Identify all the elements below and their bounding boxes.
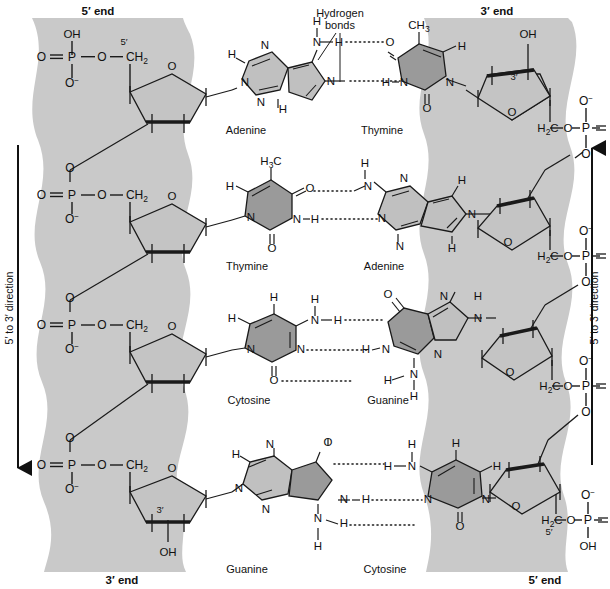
thymine2-n1: N — [247, 211, 255, 223]
cytosine-n4-h-right: H — [334, 314, 342, 326]
guanine4-n1: N — [340, 493, 348, 505]
bridging-oxygen-left-2: O — [65, 161, 74, 175]
cytosine-h-c5: H — [270, 291, 278, 303]
thymine-o2: O — [423, 102, 432, 114]
base-label-row4-right: Cytosine — [364, 563, 407, 575]
ester-oxygen-right-3: O — [564, 380, 573, 392]
cytosine4-n1: N — [482, 493, 490, 505]
bridging-oxygen-left-3: O — [65, 291, 74, 305]
ester-oxygen-left-3: O — [97, 318, 106, 332]
ring-oxygen-left-1: O — [168, 60, 177, 72]
phosphorus-right-2: P — [582, 249, 590, 263]
thymine2-h-c6: H — [226, 180, 234, 192]
guanine4-n2-h-down: H — [314, 540, 322, 552]
thymine2-o4: O — [306, 182, 315, 194]
three-prime-marker-left-4: 3′ — [156, 504, 163, 515]
ester-oxygen-left-1: O — [97, 50, 106, 64]
cytosine4-o2: O — [456, 520, 465, 532]
guanine-n7: N — [440, 290, 448, 302]
phosphorus-label-left-1: P — [68, 50, 76, 64]
adenine2-amino-h-up: H — [361, 157, 369, 169]
ring-oxygen-right-1: O — [508, 106, 517, 118]
base-label-row3-right: Guanine — [367, 394, 409, 406]
ester-oxygen-left-2: O — [97, 188, 106, 202]
cytosine4-n3: N — [424, 493, 432, 505]
guanine-n2: N — [410, 368, 418, 380]
cytosine-n4: N — [311, 314, 319, 326]
base-label-row1-right: Thymine — [361, 124, 403, 136]
oxygen-double-left-4: O — [37, 458, 46, 472]
guanine4-n2-h-right: H — [340, 517, 348, 529]
adenine2-h-c8: H — [458, 174, 466, 186]
base-label-row4-left: Guanine — [226, 563, 268, 575]
cytosine4-h-c6: H — [493, 460, 501, 472]
phosphorus-right-4: P — [584, 513, 592, 527]
hydroxyl-right-1: OH — [519, 28, 536, 40]
hydroxyl-right-4: OH — [579, 540, 596, 552]
end-label-top-right: 3′ end — [481, 5, 514, 17]
adenine-n3: N — [257, 96, 265, 108]
cytosine4-h-c5: H — [452, 437, 460, 449]
hydroxyl-left-4: OH — [159, 546, 176, 558]
ester-oxygen-left-4: O — [97, 458, 106, 472]
oxygen-double-label-left-1: O — [37, 50, 46, 64]
guanine4-n1-h: H — [362, 493, 370, 505]
guanine4-n3: N — [262, 503, 270, 515]
adenine2-n6: N — [364, 180, 372, 192]
guanine-n3: N — [434, 348, 442, 360]
dna-diagram-canvas: OH O P O O− CH2 5′ O — [0, 0, 610, 589]
guanine4-n7: N — [266, 438, 274, 450]
adenine-amino-h-right: H — [335, 36, 343, 48]
cytosine4-n4-h-left: H — [384, 460, 392, 472]
callout-line-2: bonds — [325, 19, 355, 31]
adenine2-n1: N — [378, 212, 386, 224]
ester-oxygen-right-4: O — [567, 514, 576, 526]
adenine-n1: N — [327, 75, 335, 87]
end-label-top-left: 5′ end — [82, 5, 115, 17]
thymine2-n3-h: H — [311, 213, 319, 225]
phosphorus-right-1: P — [582, 121, 590, 135]
phosphorus-left-4: P — [68, 458, 76, 472]
callout-line-1: Hydrogen — [316, 7, 364, 19]
thymine-n3-h: H — [382, 76, 390, 88]
thymine2-n3: N — [293, 213, 301, 225]
adenine-h-c8: H — [228, 48, 236, 60]
guanine-o6: O — [384, 288, 393, 300]
ester-oxygen-right-1: O — [564, 122, 573, 134]
dna-structure-figure: OH O P O O− CH2 5′ O — [0, 0, 610, 589]
thymine-n1: N — [446, 76, 454, 88]
phosphorus-right-3: P — [582, 379, 590, 393]
adenine-n6-amino: N — [313, 36, 321, 48]
end-label-bottom-left: 3′ end — [106, 574, 139, 586]
thymine-n3: N — [400, 76, 408, 88]
three-prime-marker-right-1: 3′ — [510, 71, 517, 82]
guanine4-n2: N — [314, 512, 322, 524]
guanine-n9: N — [474, 312, 482, 324]
adenine-n7: N — [261, 39, 269, 51]
base-label-row3-left: Cytosine — [228, 394, 271, 406]
base-label-row1-left: Adenine — [226, 124, 266, 136]
hydroxyl-label-left-1: OH — [63, 28, 80, 40]
cytosine4-n4: N — [408, 460, 416, 472]
cytosine-o2: O — [270, 374, 279, 386]
adenine2-n7: N — [400, 172, 408, 184]
bridging-oxygen-left-4: O — [65, 431, 74, 445]
adenine-h-c2: H — [279, 103, 287, 115]
phosphorus-left-2: P — [68, 188, 76, 202]
oxygen-double-left-3: O — [37, 318, 46, 332]
thymine-o4: O — [386, 36, 395, 48]
ring-oxygen-left-3: O — [168, 320, 177, 332]
oxygen-double-left-2: O — [37, 188, 46, 202]
end-label-bottom-right: 5′ end — [529, 574, 562, 586]
guanine-n2-h-down: H — [410, 390, 418, 402]
guanine4-n9: N — [235, 482, 243, 494]
ring-oxygen-right-2: O — [504, 236, 513, 248]
cytosine-h-c6: H — [228, 312, 236, 324]
cytosine-n1: N — [247, 343, 255, 355]
ester-oxygen-right-2: O — [564, 250, 573, 262]
base-label-row2-left: Thymine — [226, 260, 268, 272]
thymine2-o2: O — [268, 242, 277, 254]
ring-oxygen-left-2: O — [168, 190, 177, 202]
guanine4-o6: O — [324, 436, 333, 448]
adenine-n9: N — [241, 76, 249, 88]
